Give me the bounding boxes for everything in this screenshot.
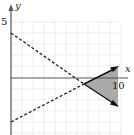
y-axis-label: y xyxy=(15,1,21,11)
y-axis-arrow-icon xyxy=(9,4,14,11)
x-tick-label-10: 10 xyxy=(112,81,125,91)
plot-area xyxy=(0,0,134,135)
y-tick-label-5: 5 xyxy=(1,17,7,27)
inequality-graph: y 5 x 10 xyxy=(0,0,134,135)
x-axis-label: x xyxy=(125,64,131,74)
